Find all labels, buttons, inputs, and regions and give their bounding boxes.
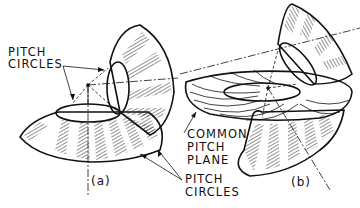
label-pitch-circles-top-line2: CIRCLES [8, 57, 63, 71]
pitch-circle-inclined-b [274, 38, 323, 91]
gear-pair-a: PITCH CIRCLES (a) [8, 25, 178, 195]
leader-top-1 [63, 66, 104, 70]
label-common-pitch-plane-line3: PLANE [187, 153, 229, 167]
leader-bottom-2 [140, 154, 182, 180]
label-pitch-circles-bottom-line1: PITCH [185, 172, 223, 186]
leader-bottom-1 [158, 150, 182, 180]
label-common-pitch-plane-line2: PITCH [187, 140, 225, 154]
pitch-circle-vertical-a [107, 62, 129, 114]
pitch-circle-horizontal-b [224, 83, 300, 101]
label-common-pitch-plane-line1: COMMON [187, 127, 248, 141]
subfigure-label-b: (b) [291, 175, 311, 189]
subfigure-label-a: (a) [91, 174, 111, 188]
label-pitch-circles-bottom-line2: CIRCLES [185, 185, 240, 199]
bevel-gear-diagram: PITCH CIRCLES (a) [0, 0, 360, 208]
gear-pair-b: COMMON PITCH PLANE PITCH CIRCLES (b) [180, 4, 360, 199]
horizontal-bevel-gear-b [186, 70, 353, 120]
